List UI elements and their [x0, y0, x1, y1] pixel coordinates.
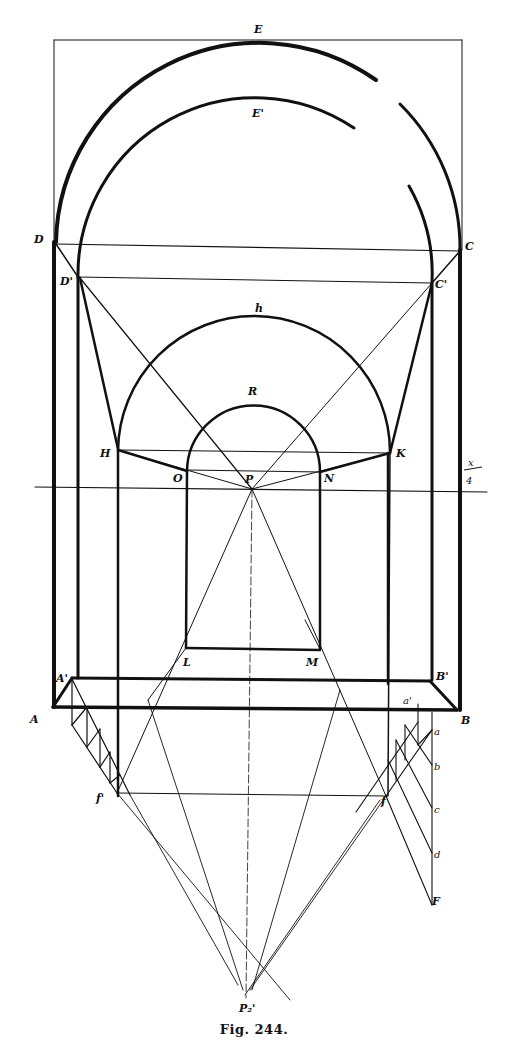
label-h: h	[255, 302, 263, 315]
line-D1C1	[78, 277, 432, 283]
front-arch-E	[56, 43, 376, 242]
label-K: K	[395, 447, 406, 460]
label-a-prime: a'	[403, 695, 412, 706]
label-H: H	[99, 447, 111, 460]
label-M: M	[305, 656, 319, 669]
label-c: c	[434, 804, 440, 815]
front-arch-E-right	[400, 104, 460, 250]
label-O: O	[173, 472, 183, 485]
figure-caption: Fig. 244.	[0, 1022, 508, 1037]
label-P: P	[244, 473, 254, 486]
label-P2-prime: P₂'	[238, 1002, 255, 1015]
label-f-prime: f'	[95, 792, 104, 805]
label-A-prime: A'	[55, 672, 68, 685]
horizon-line	[35, 487, 487, 492]
label-N: N	[323, 472, 335, 485]
point-labels: E E' D C D' C' h R H K O N P x 4 L M A' …	[29, 23, 482, 1015]
label-E-prime: E'	[251, 107, 264, 120]
label-D: D	[33, 233, 44, 246]
line-A1B1	[72, 678, 430, 681]
label-B-prime: B'	[435, 670, 449, 683]
label-b: b	[434, 761, 440, 772]
label-C-prime: C'	[435, 278, 447, 291]
inner-arch-E-prime-right	[409, 186, 432, 282]
perspective-arch-diagram: E E' D C D' C' h R H K O N P x 4 L M A' …	[0, 0, 508, 1047]
label-L: L	[182, 656, 191, 669]
label-C: C	[465, 240, 474, 253]
label-A: A	[29, 713, 39, 726]
label-D-prime: D'	[59, 275, 73, 288]
bounding-rectangle	[54, 40, 462, 250]
label-F: F	[431, 895, 441, 908]
label-a: a	[434, 726, 440, 737]
inner-arch-E-prime	[78, 98, 354, 278]
label-horizon-mark-bottom: 4	[465, 475, 472, 486]
line-DC	[56, 244, 460, 251]
small-arch-R	[187, 406, 320, 473]
label-E: E	[253, 23, 263, 36]
label-R: R	[247, 385, 257, 398]
left-measuring-strip	[72, 679, 290, 1000]
label-d: d	[434, 849, 440, 860]
right-measuring-strip	[245, 704, 432, 995]
label-B: B	[460, 714, 470, 727]
line-AB	[53, 707, 457, 710]
label-horizon-mark-top: x	[468, 457, 474, 468]
